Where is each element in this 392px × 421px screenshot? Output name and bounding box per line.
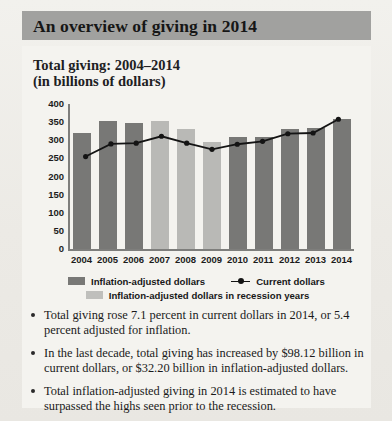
x-tick-2012: 2012	[279, 254, 297, 268]
y-tick-150: 150	[48, 190, 64, 200]
y-tick-350: 350	[48, 117, 64, 127]
line-marker-2005	[108, 141, 113, 146]
bullet-item: In the last decade, total giving has inc…	[22, 346, 371, 375]
chart-area: 400350300250200150100500 200420052006200…	[22, 98, 371, 258]
line-marker-2009	[209, 147, 214, 152]
chart-subtitle-line1: Total giving: 2004–2014	[33, 57, 180, 74]
line-marker-2007	[159, 134, 164, 139]
y-tick-400: 400	[48, 99, 64, 109]
current-dollars-line	[70, 104, 354, 249]
bullet-item: Total inflation-adjusted giving in 2014 …	[22, 384, 371, 413]
x-tick-2004: 2004	[71, 254, 89, 268]
bullet-text: In the last decade, total giving has inc…	[44, 346, 371, 375]
legend-label-current-dollars: Current dollars	[256, 276, 325, 287]
line-marker-2010	[235, 142, 240, 147]
bullet-dot-icon	[31, 313, 35, 317]
line-marker-2004	[83, 154, 88, 159]
y-tick-200: 200	[48, 172, 64, 182]
legend-swatch-inflation-adjusted	[68, 277, 85, 285]
y-tick-250: 250	[48, 153, 64, 163]
legend-row-top: Inflation-adjusted dollars Current dolla…	[22, 274, 371, 288]
line-marker-2008	[184, 141, 189, 146]
plot-area	[68, 104, 354, 251]
legend-label-inflation-adjusted: Inflation-adjusted dollars	[91, 276, 205, 287]
x-tick-2014: 2014	[331, 254, 349, 268]
legend-swatch-recession	[86, 291, 103, 299]
x-tick-2008: 2008	[175, 254, 193, 268]
x-tick-2007: 2007	[149, 254, 167, 268]
chart-legend: Inflation-adjusted dollars Current dolla…	[22, 274, 371, 302]
x-tick-2013: 2013	[305, 254, 323, 268]
x-axis-labels: 2004200520062007200820092010201120122013…	[68, 254, 352, 268]
x-tick-2009: 2009	[201, 254, 219, 268]
legend-row-bottom: Inflation-adjusted dollars in recession …	[22, 288, 371, 302]
chart-panel: Total giving: 2004–2014 (in billions of …	[22, 46, 371, 408]
poster-page: An overview of giving in 2014 Total givi…	[0, 0, 392, 421]
chart-subtitle-line2: (in billions of dollars)	[33, 73, 166, 90]
line-marker-2013	[310, 130, 315, 135]
y-tick-50: 50	[53, 226, 64, 236]
y-axis-labels: 400350300250200150100500	[22, 98, 64, 258]
y-tick-0: 0	[59, 244, 64, 254]
bullet-list: Total giving rose 7.1 percent in current…	[22, 308, 371, 421]
x-tick-2011: 2011	[253, 254, 271, 268]
page-title: An overview of giving in 2014	[33, 13, 363, 39]
legend-label-recession: Inflation-adjusted dollars in recession …	[109, 290, 309, 301]
line-marker-2011	[260, 139, 265, 144]
legend-line-marker-icon	[231, 277, 250, 285]
bullet-dot-icon	[31, 389, 35, 393]
y-tick-100: 100	[48, 208, 64, 218]
line-marker-2012	[285, 131, 290, 136]
bullet-item: Total giving rose 7.1 percent in current…	[22, 308, 371, 337]
bullet-dot-icon	[31, 351, 35, 355]
line-marker-2006	[134, 141, 139, 146]
x-tick-2010: 2010	[227, 254, 245, 268]
y-tick-300: 300	[48, 135, 64, 145]
x-tick-2006: 2006	[123, 254, 141, 268]
bullet-text: Total inflation-adjusted giving in 2014 …	[44, 384, 371, 413]
line-marker-2014	[336, 117, 341, 122]
bullet-text: Total giving rose 7.1 percent in current…	[44, 308, 371, 337]
x-tick-2005: 2005	[97, 254, 115, 268]
